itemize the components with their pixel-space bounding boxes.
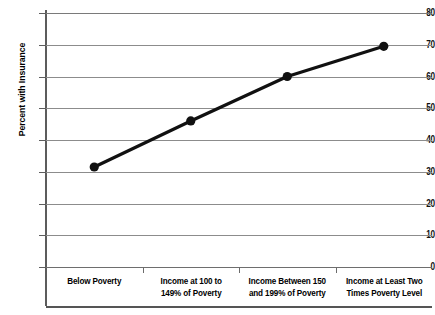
data-point-3[interactable] <box>379 42 388 51</box>
y-tick-60 <box>39 77 46 78</box>
chart-container: Percent with Insurance 80706050403020100… <box>0 0 435 315</box>
x-axis-label-line: 149% of Poverty <box>147 288 234 300</box>
line-series-layer <box>46 13 432 267</box>
x-axis-label-line: Income at 100 to <box>147 276 234 288</box>
y-tick-0 <box>39 267 46 268</box>
plot-area <box>46 13 432 267</box>
y-tick-30 <box>39 172 46 173</box>
y-tick-20 <box>39 204 46 205</box>
y-tick-80 <box>39 13 46 14</box>
x-axis-label-line: Income Between 150 <box>244 276 331 288</box>
data-point-1[interactable] <box>186 116 195 125</box>
category-separator-1 <box>143 267 144 273</box>
y-tick-10 <box>39 235 46 236</box>
x-axis-label-3: Income at Least TwoTimes Poverty Level <box>340 276 427 299</box>
x-axis-label-2: Income Between 150and 199% of Poverty <box>244 276 331 299</box>
y-tick-40 <box>39 140 46 141</box>
y-axis-title: Percent with Insurance <box>16 30 27 150</box>
x-axis-label-line: and 199% of Poverty <box>244 288 331 300</box>
category-separator-3 <box>336 267 337 273</box>
x-axis-label-line: Times Poverty Level <box>340 288 427 300</box>
x-axis-label-0: Below Poverty <box>51 276 138 288</box>
data-point-2[interactable] <box>283 72 292 81</box>
category-label-band: Below PovertyIncome at 100 to149% of Pov… <box>46 267 432 308</box>
series-line <box>94 46 384 167</box>
y-tick-70 <box>39 45 46 46</box>
data-point-0[interactable] <box>90 162 99 171</box>
y-tick-50 <box>39 108 46 109</box>
x-axis-label-1: Income at 100 to149% of Poverty <box>147 276 234 299</box>
x-axis-label-line: Below Poverty <box>51 276 138 288</box>
x-axis-label-line: Income at Least Two <box>340 276 427 288</box>
category-separator-2 <box>239 267 240 273</box>
